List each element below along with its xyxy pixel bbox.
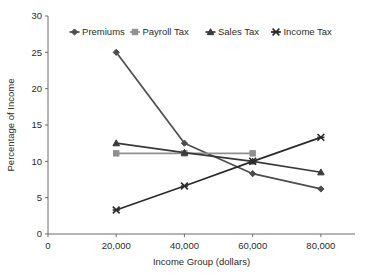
x-axis-title: Income Group (dollars) — [153, 256, 250, 267]
x-tick-label: 0 — [45, 240, 50, 251]
y-tick-label: 15 — [31, 119, 42, 130]
series-line — [116, 52, 321, 189]
legend-label: Payroll Tax — [142, 26, 189, 37]
data-point-diamond-marker — [250, 171, 256, 177]
legend-label: Income Tax — [283, 26, 332, 37]
y-axis-title: Percentage of Income — [5, 79, 16, 172]
data-point-square-marker — [114, 151, 119, 156]
series-income-tax — [113, 134, 325, 213]
data-point-diamond-marker — [318, 186, 324, 192]
y-axis-ticks: 051015202530 — [31, 10, 48, 239]
chart-container: 051015202530020,00040,00060,00080,000Inc… — [0, 0, 369, 277]
axes — [48, 16, 355, 234]
x-tick-label: 40,000 — [170, 240, 199, 251]
legend: PremiumsPayroll TaxSales TaxIncome Tax — [70, 26, 333, 37]
legend-label: Sales Tax — [218, 26, 259, 37]
y-tick-label: 10 — [31, 156, 42, 167]
legend-item-sales-tax[interactable]: Sales Tax — [206, 26, 260, 37]
legend-label: Premiums — [82, 26, 125, 37]
x-tick-label: 20,000 — [102, 240, 131, 251]
x-tick-label: 80,000 — [306, 240, 335, 251]
legend-item-premiums[interactable]: Premiums — [70, 26, 126, 37]
series-premiums — [113, 49, 324, 192]
legend-item-income-tax[interactable]: Income Tax — [271, 26, 332, 37]
legend-item-payroll-tax[interactable]: Payroll Tax — [130, 26, 189, 37]
y-tick-label: 25 — [31, 47, 42, 58]
data-point-square-marker — [250, 151, 255, 156]
x-tick-label: 60,000 — [238, 240, 267, 251]
y-tick-label: 30 — [31, 10, 42, 21]
x-axis-ticks: 020,00040,00060,00080,000 — [45, 234, 335, 251]
series-sales-tax — [113, 140, 324, 175]
y-tick-label: 20 — [31, 83, 42, 94]
data-point-square-marker — [132, 29, 137, 34]
y-tick-label: 5 — [37, 192, 42, 203]
series-group — [113, 49, 325, 213]
line-chart: 051015202530020,00040,00060,00080,000Inc… — [0, 0, 369, 277]
data-point-diamond-marker — [71, 29, 77, 35]
y-tick-label: 0 — [37, 228, 42, 239]
